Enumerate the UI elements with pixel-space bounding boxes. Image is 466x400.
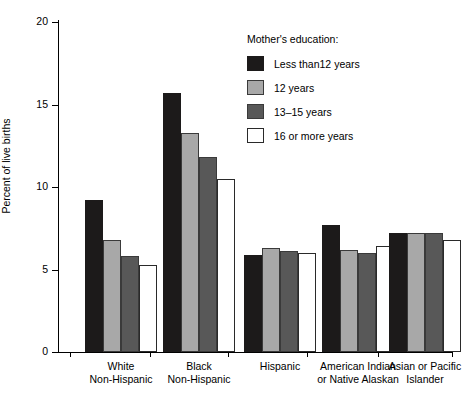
legend-swatch <box>247 56 264 71</box>
bar <box>340 250 358 352</box>
bar <box>217 179 235 352</box>
legend-label: Less than12 years <box>274 58 360 70</box>
legend-item: 16 or more years <box>247 125 360 146</box>
y-tick-label: 5 <box>18 264 48 275</box>
x-tick <box>150 352 151 357</box>
y-tick-label: 0 <box>18 346 48 357</box>
legend-label: 16 or more years <box>274 130 353 142</box>
bar <box>139 265 157 352</box>
legend-item: 13–15 years <box>247 101 360 122</box>
y-tick-label: 10 <box>18 181 48 192</box>
x-tick-label: Asian or Pacific Islander <box>366 360 466 385</box>
x-axis-line <box>58 352 452 353</box>
bar <box>407 233 425 352</box>
x-tick <box>378 352 379 357</box>
legend-label: 12 years <box>274 82 314 94</box>
x-tick <box>452 352 453 357</box>
legend-swatch <box>247 128 264 143</box>
bar <box>181 133 199 352</box>
bar <box>298 253 316 352</box>
legend-swatch <box>247 104 264 119</box>
y-tick <box>52 352 58 353</box>
bar <box>443 240 461 352</box>
x-tick <box>228 352 229 357</box>
legend-label: 13–15 years <box>274 106 332 118</box>
x-tick <box>70 352 71 357</box>
bar <box>244 255 262 352</box>
legend-swatch <box>247 80 264 95</box>
bar <box>85 200 103 352</box>
bar <box>262 248 280 352</box>
bar <box>389 233 407 352</box>
bar <box>163 93 181 352</box>
y-tick-label: 15 <box>18 99 48 110</box>
bar <box>425 233 443 352</box>
bar <box>280 251 298 352</box>
legend-title: Mother's education: <box>247 33 360 45</box>
bar <box>121 256 139 352</box>
bar <box>103 240 121 352</box>
legend: Mother's education: Less than12 years12 … <box>247 33 360 149</box>
legend-item: 12 years <box>247 77 360 98</box>
bar <box>322 225 340 352</box>
bar <box>199 157 217 352</box>
y-axis-title: Percent of live births <box>0 46 12 286</box>
legend-entries: Less than12 years12 years13–15 years16 o… <box>247 53 360 146</box>
y-tick-label: 20 <box>18 16 48 27</box>
bar <box>358 253 376 352</box>
legend-item: Less than12 years <box>247 53 360 74</box>
x-tick <box>307 352 308 357</box>
